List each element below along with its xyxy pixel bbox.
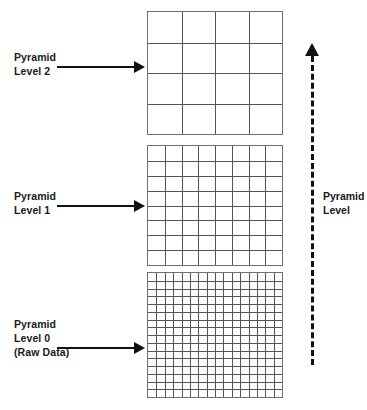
level-1-label: Pyramid Level 1	[14, 189, 56, 217]
level-1-arrow	[57, 200, 145, 212]
level-1-label-line-2: Level 1	[14, 203, 56, 217]
grid-line-horizontal	[148, 235, 282, 236]
pyramid-level-axis-line	[311, 56, 314, 365]
level-2-arrow-head	[134, 61, 145, 73]
grid-line-horizontal	[148, 161, 282, 162]
grid-line-horizontal	[148, 104, 282, 105]
level-2-grid	[147, 11, 283, 135]
grid-line-horizontal	[148, 289, 282, 290]
grid-line-horizontal	[148, 250, 282, 251]
grid-line-horizontal	[148, 327, 282, 328]
grid-line-horizontal	[148, 382, 282, 383]
axis-label-line-2: Level	[323, 203, 364, 217]
level-0-label-line-1: Pyramid	[14, 317, 69, 331]
axis-label-line-1: Pyramid	[323, 189, 364, 203]
level-1-grid	[147, 145, 283, 266]
grid-line-horizontal	[148, 304, 282, 305]
level-0-arrow-head	[134, 342, 145, 354]
grid-line-horizontal	[148, 358, 282, 359]
pyramid-levels-diagram: Pyramid Level 2 Pyramid Level 1 Pyramid …	[0, 0, 367, 410]
level-1-arrow-shaft	[57, 205, 134, 207]
level-2-label-line-1: Pyramid	[14, 50, 56, 64]
grid-line-horizontal	[148, 312, 282, 313]
level-2-label: Pyramid Level 2	[14, 50, 56, 78]
grid-line-horizontal	[148, 366, 282, 367]
grid-line-horizontal	[148, 296, 282, 297]
level-2-arrow-shaft	[57, 66, 134, 68]
level-0-arrow-shaft	[57, 347, 134, 349]
grid-line-horizontal	[148, 335, 282, 336]
grid-line-horizontal	[148, 73, 282, 74]
level-1-label-line-1: Pyramid	[14, 189, 56, 203]
grid-line-horizontal	[148, 43, 282, 44]
level-0-grid	[147, 272, 283, 398]
level-1-arrow-head	[134, 200, 145, 212]
level-0-arrow	[57, 342, 145, 354]
grid-line-horizontal	[148, 351, 282, 352]
grid-line-horizontal	[148, 320, 282, 321]
grid-line-horizontal	[148, 191, 282, 192]
up-arrow-icon	[305, 43, 319, 56]
level-2-arrow	[57, 61, 145, 73]
grid-line-horizontal	[148, 389, 282, 390]
grid-line-horizontal	[148, 343, 282, 344]
level-2-label-line-2: Level 2	[14, 64, 56, 78]
pyramid-level-axis-label: Pyramid Level	[323, 189, 364, 217]
grid-line-horizontal	[148, 220, 282, 221]
grid-line-horizontal	[148, 176, 282, 177]
grid-line-horizontal	[148, 281, 282, 282]
grid-line-horizontal	[148, 374, 282, 375]
grid-line-horizontal	[148, 206, 282, 207]
